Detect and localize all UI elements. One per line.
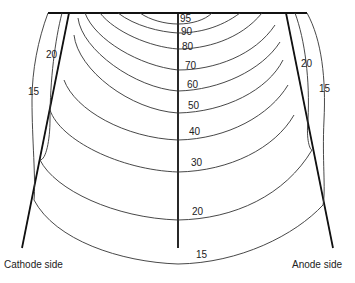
label-15-center: 15 — [196, 249, 208, 260]
isodose-15-cathode-lobe — [32, 13, 48, 200]
label-90: 90 — [181, 26, 193, 37]
label-15-anode: 15 — [319, 83, 331, 94]
isodose-60 — [78, 18, 280, 91]
isodose-20 — [40, 150, 312, 220]
cathode-side-label: Cathode side — [4, 259, 63, 270]
label-20-center: 20 — [192, 206, 204, 217]
isodose-30 — [50, 110, 294, 172]
isodose-40 — [64, 80, 288, 140]
label-40: 40 — [189, 126, 201, 137]
label-95: 95 — [180, 13, 192, 24]
label-70: 70 — [185, 60, 197, 71]
label-80: 80 — [182, 41, 194, 52]
label-30: 30 — [191, 157, 203, 168]
label-15-cathode: 15 — [28, 86, 40, 97]
label-60: 60 — [187, 79, 199, 90]
isodose-90 — [118, 13, 240, 33]
label-20-cathode: 20 — [46, 49, 58, 60]
anode-side-label: Anode side — [292, 259, 342, 270]
isodose-15-anode-lobe — [307, 13, 324, 205]
label-50: 50 — [188, 100, 200, 111]
label-20-anode: 20 — [301, 58, 313, 69]
isodose-diagram: 95 90 80 70 60 50 40 30 20 15 20 15 20 1… — [0, 0, 355, 283]
anode-beam-edge — [286, 13, 333, 248]
isodose-95 — [140, 13, 212, 24]
